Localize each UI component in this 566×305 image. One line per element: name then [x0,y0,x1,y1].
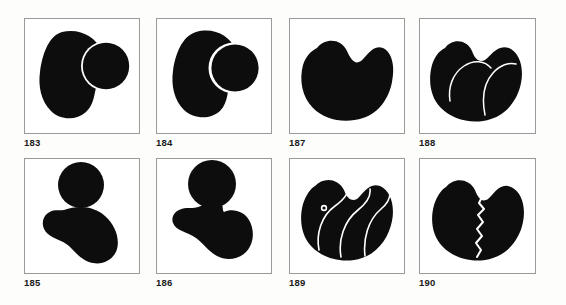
shape-190 [419,158,536,274]
figure-panel-190 [419,158,536,274]
shape-188 [419,18,536,134]
shape-189 [289,158,405,274]
panel-caption-185: 185 [24,277,40,288]
figure-panel-186 [156,158,272,274]
figure-panel-188 [419,18,536,134]
figure-panel-185 [24,158,140,274]
panel-caption-184: 184 [156,137,172,148]
panel-caption-187: 187 [289,137,305,148]
panel-caption-190: 190 [419,277,435,288]
shape-185 [24,158,140,274]
figure-plate: 183 184 187 188 185 [0,0,566,305]
shape-186 [156,158,272,274]
shape-184 [156,18,272,134]
panel-caption-188: 188 [419,137,435,148]
figure-panel-187 [289,18,405,134]
shape-183 [24,18,140,134]
shape-187 [289,18,405,134]
panel-caption-183: 183 [24,137,40,148]
figure-panel-183 [24,18,140,134]
figure-panel-189 [289,158,405,274]
figure-panel-184 [156,18,272,134]
panel-caption-186: 186 [156,277,172,288]
panel-caption-189: 189 [289,277,305,288]
